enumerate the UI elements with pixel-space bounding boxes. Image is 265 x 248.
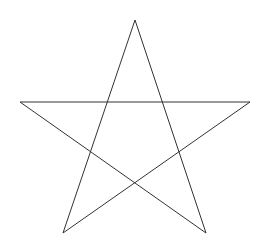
pentagram-canvas — [0, 0, 265, 248]
background — [0, 0, 265, 248]
